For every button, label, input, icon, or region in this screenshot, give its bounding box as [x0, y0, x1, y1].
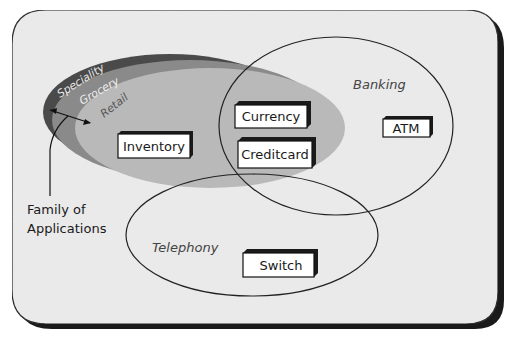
banking-label: Banking: [353, 77, 406, 92]
inventory-box: Inventory: [118, 131, 193, 158]
diagram-canvas: Speciality Grocery Retail Banking Teleph…: [0, 0, 516, 339]
atm-label: ATM: [392, 121, 419, 136]
atm-box: ATM: [383, 116, 433, 137]
inventory-label: Inventory: [123, 139, 185, 154]
currency-label: Currency: [242, 109, 301, 124]
creditcard-label: Creditcard: [241, 147, 309, 162]
callout-line1: Family of: [27, 202, 86, 217]
creditcard-box: Creditcard: [238, 137, 316, 168]
callout-line2: Applications: [27, 221, 107, 236]
switch-box: Switch: [243, 249, 318, 277]
telephony-label: Telephony: [152, 240, 219, 255]
currency-box: Currency: [235, 101, 311, 128]
switch-label: Switch: [260, 258, 303, 273]
